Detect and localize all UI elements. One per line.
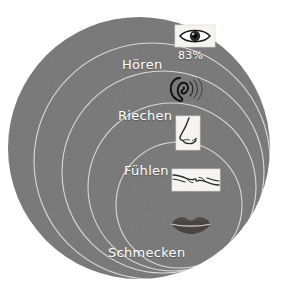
ring-label-riechen: Riechen (118, 108, 172, 123)
ring-label-fuehlen: Fühlen (124, 163, 169, 178)
hands-icon (172, 169, 220, 191)
diagram-canvas: 83% Hören Riechen Fühlen Schmecken (0, 0, 288, 298)
ring-label-hoeren: Hören (122, 57, 163, 72)
nose-icon (176, 116, 200, 150)
sehen-percent-label: 83% (178, 49, 203, 62)
eye-icon (175, 25, 215, 47)
ring-label-schmecken: Schmecken (108, 245, 185, 260)
